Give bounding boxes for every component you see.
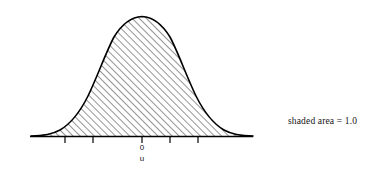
shaded-area-annotation: shaded area = 1.0 bbox=[288, 115, 357, 127]
normal-distribution-figure: 0 u shaded area = 1.0 bbox=[0, 0, 373, 178]
x-axis-variable-label: u bbox=[128, 154, 156, 163]
normal-curve-plot bbox=[0, 0, 373, 178]
shaded-region bbox=[28, 10, 258, 140]
origin-tick-label: 0 bbox=[128, 143, 156, 152]
